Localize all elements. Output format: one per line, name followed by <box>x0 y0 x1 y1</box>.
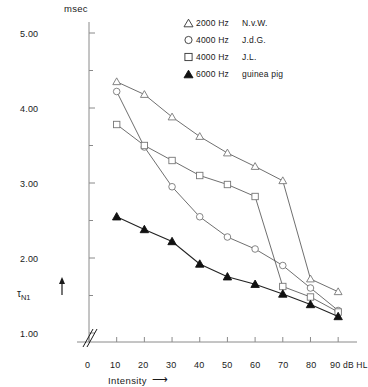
data-point <box>113 88 120 95</box>
data-point <box>140 225 148 232</box>
data-point <box>307 275 315 282</box>
data-point <box>224 234 231 241</box>
data-point <box>224 149 232 156</box>
data-point <box>141 142 147 148</box>
data-point <box>280 283 286 289</box>
data-point <box>279 262 286 269</box>
data-point <box>307 294 313 300</box>
data-point <box>334 288 342 295</box>
data-point <box>196 260 204 267</box>
data-point <box>251 163 259 170</box>
data-point <box>169 183 176 190</box>
data-point <box>197 172 203 178</box>
data-point <box>113 78 121 85</box>
data-point <box>252 193 258 199</box>
data-point <box>168 237 176 244</box>
data-point <box>113 121 119 127</box>
data-point <box>196 133 204 140</box>
data-point <box>306 300 314 307</box>
series-3 <box>112 213 342 320</box>
data-point <box>196 213 203 220</box>
data-point <box>223 273 231 280</box>
data-point <box>279 177 287 184</box>
data-point <box>252 246 259 253</box>
data-point <box>224 181 230 187</box>
data-point <box>112 213 120 220</box>
data-point <box>140 91 148 98</box>
data-point <box>169 157 175 163</box>
data-point <box>307 285 314 292</box>
data-point <box>168 113 176 120</box>
